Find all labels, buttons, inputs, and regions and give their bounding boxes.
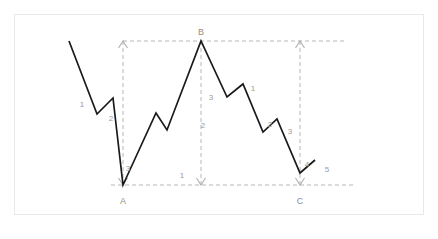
elliott-wave-chart: A B C 1 2 3 1 2 3 1 2 3 4 5	[15, 15, 423, 214]
wave-label-decline-a-3: 3	[126, 164, 131, 173]
pivot-label-b: B	[198, 27, 204, 37]
top-faint-text-strip	[0, 0, 438, 9]
pivot-label-a: A	[120, 196, 126, 206]
wave-label-rally-b-3: 3	[209, 93, 214, 102]
wave-label-decline-c-1: 1	[251, 84, 256, 93]
wave-label-decline-c-3: 3	[288, 127, 293, 136]
guide-lines-group	[111, 41, 355, 185]
wave-label-decline-a-2: 2	[109, 114, 114, 123]
pivot-label-c: C	[297, 196, 304, 206]
pivot-labels-group: A B C	[120, 27, 304, 206]
wave-label-rally-b-1: 1	[180, 171, 185, 180]
wave-label-decline-a-1: 1	[80, 100, 85, 109]
chart-frame: A B C 1 2 3 1 2 3 1 2 3 4 5	[14, 14, 424, 215]
wave-label-decline-c-4: 4	[305, 160, 310, 169]
wave-label-rally-b-2: 2	[201, 121, 206, 130]
price-wave-path	[69, 41, 315, 185]
wave-label-decline-c-2: 2	[268, 120, 273, 129]
wave-label-decline-c-5: 5	[325, 165, 330, 174]
